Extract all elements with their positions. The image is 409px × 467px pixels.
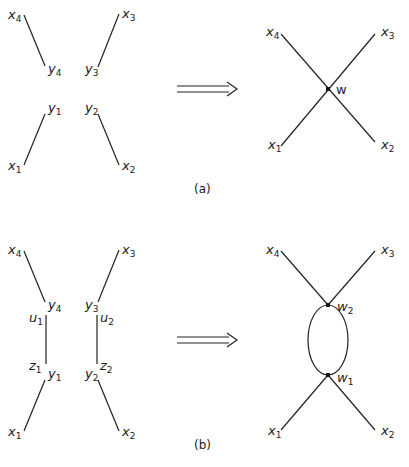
label-x1: x1: [7, 158, 21, 175]
caption-b: (b): [194, 438, 211, 452]
panel-b-right: x4 x3 w2 w1 x1 x2: [265, 242, 394, 440]
label-x3: x3: [121, 242, 135, 259]
feynman-diagram: x4 x3 y4 y3 y1 y2 x1 x2 x4 x3 w x1 x2 (a…: [0, 0, 409, 467]
label-w2: w2: [337, 299, 353, 316]
label-x4: x4: [265, 242, 280, 259]
label-x2: x2: [121, 424, 135, 441]
panel-b-left: x4 x3 y4 y3 u1 u2 z1 z2 y1 y2 x1 x2: [7, 242, 135, 441]
loop: [308, 305, 348, 375]
edge-w1-x1: [281, 375, 328, 430]
label-w1: w1: [337, 370, 353, 387]
double-arrow-icon: [177, 82, 237, 96]
label-u1: u1: [29, 310, 43, 327]
label-x1: x1: [267, 423, 281, 440]
label-x2: x2: [121, 158, 135, 175]
label-y3: y3: [84, 297, 98, 314]
label-x4: x4: [7, 242, 22, 259]
edge-x3-y3: [98, 250, 119, 302]
label-y2: y2: [84, 100, 98, 117]
label-u2: u2: [100, 310, 114, 327]
label-y1: y1: [47, 100, 61, 117]
vertex-w: [326, 87, 330, 91]
label-y1: y1: [47, 366, 61, 383]
label-x2: x2: [380, 423, 394, 440]
caption-a: (a): [194, 182, 211, 196]
label-y3: y3: [84, 61, 98, 78]
edge-y2-x2: [98, 380, 119, 431]
label-x4: x4: [265, 24, 280, 41]
label-x2: x2: [380, 137, 394, 154]
edge-y2-x2: [98, 114, 119, 165]
panel-a-right: x4 x3 w x1 x2: [265, 24, 394, 154]
label-y4: y4: [47, 297, 62, 314]
edge-x3-y3: [98, 14, 119, 67]
edge-x4-w2: [281, 251, 328, 305]
edge-y1-x1: [24, 380, 45, 431]
label-y4: y4: [47, 61, 62, 78]
edge-x3-w2: [328, 251, 375, 305]
edge-x4-y4: [24, 251, 45, 302]
label-x3: x3: [380, 242, 394, 259]
label-y2: y2: [84, 366, 98, 383]
label-w: w: [336, 82, 347, 97]
label-x4: x4: [7, 7, 22, 24]
label-x1: x1: [267, 137, 281, 154]
edge-x4-y4: [24, 15, 45, 66]
label-x3: x3: [380, 24, 394, 41]
vertex-w1: [326, 373, 330, 377]
panel-a-left: x4 x3 y4 y3 y1 y2 x1 x2: [7, 6, 135, 175]
vertex-w2: [326, 303, 330, 307]
double-arrow-icon: [177, 333, 237, 347]
label-x1: x1: [7, 424, 21, 441]
label-z1: z1: [28, 358, 42, 375]
edge-y1-x1: [24, 114, 45, 165]
label-z2: z2: [99, 358, 113, 375]
label-x3: x3: [121, 6, 135, 23]
